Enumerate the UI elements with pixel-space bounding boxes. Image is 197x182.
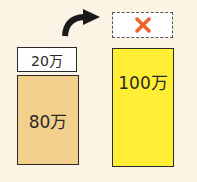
cross-icon [135, 17, 151, 33]
amount-label: 80万 [29, 108, 68, 133]
amount-label: 100万 [118, 69, 167, 94]
amount-box-100man: 100万 [112, 48, 174, 167]
amount-box-80man: 80万 [17, 75, 79, 165]
amount-box-20man: 20万 [17, 47, 77, 72]
curved-arrow-right-icon [62, 8, 102, 38]
empty-slot-box [112, 12, 173, 38]
amount-label: 20万 [31, 50, 63, 70]
